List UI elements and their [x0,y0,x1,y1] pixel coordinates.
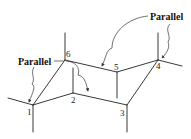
ring-bonds [33,60,158,105]
atom-label-3: 3 [120,108,125,118]
callout-top-right-arrow-icon [102,16,148,66]
equatorial-bond-4 [158,60,182,66]
bond-4-5 [117,60,158,72]
callout-top-right-label: Parallel [150,11,184,22]
bond-2-3 [73,93,127,105]
chair-cyclohexane-diagram: 1 2 3 4 5 6 Parallel Parallel [0,0,191,139]
atom-label-2: 2 [71,95,76,105]
callout-left-label: Parallel [18,56,52,67]
callout-top-right: Parallel [102,11,184,66]
bond-1-2 [33,93,73,105]
bond-3-4 [127,60,158,105]
atom-label-4: 4 [156,61,161,71]
axial-bonds [33,33,158,132]
callout-top-right-arrow2-icon [162,24,170,58]
callout-left-arrow-icon [29,67,34,102]
atom-label-1: 1 [27,107,32,117]
atom-label-5: 5 [114,62,119,72]
atom-label-6: 6 [66,49,71,59]
callout-left-arrow2-icon [66,61,88,91]
